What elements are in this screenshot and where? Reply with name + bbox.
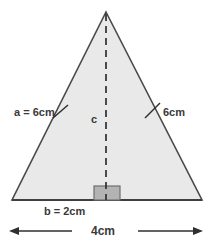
left-side-label: a = 6cm bbox=[14, 106, 55, 118]
dimension-arrow-left-icon bbox=[9, 227, 19, 235]
base-segment-label: b = 2cm bbox=[44, 205, 85, 217]
geometry-diagram: a = 6cm 6cm c b = 2cm 4cm bbox=[0, 0, 211, 239]
right-angle-marker bbox=[94, 186, 120, 200]
dimension-arrow-right-icon bbox=[193, 227, 203, 235]
altitude-label: c bbox=[91, 113, 97, 125]
right-side-label: 6cm bbox=[163, 106, 185, 118]
triangle-diagram-canvas: a = 6cm 6cm c b = 2cm 4cm bbox=[0, 0, 211, 239]
base-dimension-label: 4cm bbox=[91, 224, 115, 238]
